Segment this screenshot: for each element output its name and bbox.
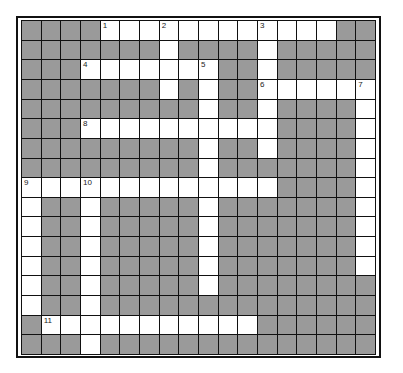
crossword-cell[interactable]: 3	[258, 21, 277, 40]
crossword-cell[interactable]	[22, 198, 41, 217]
crossword-cell[interactable]	[199, 119, 218, 138]
crossword-cell[interactable]	[160, 41, 179, 60]
crossword-cell[interactable]	[199, 21, 218, 40]
blocked-cell	[219, 276, 238, 295]
crossword-cell[interactable]	[81, 198, 100, 217]
blocked-cell	[258, 296, 277, 315]
crossword-cell[interactable]	[22, 237, 41, 256]
crossword-cell[interactable]: 4	[81, 60, 100, 79]
crossword-cell[interactable]	[199, 276, 218, 295]
crossword-cell[interactable]	[179, 21, 198, 40]
crossword-cell[interactable]	[179, 178, 198, 197]
crossword-cell[interactable]: 10	[81, 178, 100, 197]
crossword-cell[interactable]	[160, 316, 179, 335]
crossword-cell[interactable]	[238, 21, 257, 40]
crossword-cell[interactable]	[199, 257, 218, 276]
crossword-cell[interactable]	[219, 21, 238, 40]
crossword-cell[interactable]	[297, 80, 316, 99]
crossword-cell[interactable]	[140, 119, 159, 138]
crossword-cell[interactable]	[42, 178, 61, 197]
blocked-cell	[356, 335, 375, 354]
crossword-cell[interactable]	[120, 119, 139, 138]
crossword-cell[interactable]	[179, 60, 198, 79]
crossword-cell[interactable]	[258, 119, 277, 138]
crossword-cell[interactable]	[356, 237, 375, 256]
crossword-cell[interactable]	[61, 316, 80, 335]
crossword-cell[interactable]	[120, 316, 139, 335]
crossword-cell[interactable]	[199, 198, 218, 217]
crossword-cell[interactable]	[120, 178, 139, 197]
crossword-cell[interactable]	[258, 100, 277, 119]
crossword-cell[interactable]	[81, 276, 100, 295]
crossword-cell[interactable]	[258, 41, 277, 60]
crossword-cell[interactable]	[297, 21, 316, 40]
crossword-cell[interactable]	[356, 100, 375, 119]
crossword-cell[interactable]	[140, 60, 159, 79]
crossword-cell[interactable]	[22, 217, 41, 236]
crossword-cell[interactable]	[140, 21, 159, 40]
crossword-cell[interactable]	[81, 237, 100, 256]
crossword-cell[interactable]	[160, 178, 179, 197]
crossword-cell[interactable]	[199, 237, 218, 256]
crossword-cell[interactable]	[61, 178, 80, 197]
crossword-cell[interactable]: 9	[22, 178, 41, 197]
crossword-cell[interactable]	[179, 119, 198, 138]
crossword-cell[interactable]	[199, 139, 218, 158]
crossword-cell[interactable]	[22, 276, 41, 295]
crossword-cell[interactable]	[199, 316, 218, 335]
crossword-cell[interactable]	[258, 60, 277, 79]
crossword-cell[interactable]	[120, 60, 139, 79]
crossword-cell[interactable]	[278, 80, 297, 99]
crossword-cell[interactable]	[356, 119, 375, 138]
crossword-cell[interactable]	[356, 178, 375, 197]
crossword-cell[interactable]	[199, 100, 218, 119]
crossword-cell[interactable]	[101, 178, 120, 197]
crossword-cell[interactable]	[356, 139, 375, 158]
crossword-cell[interactable]	[219, 316, 238, 335]
crossword-cell[interactable]: 11	[42, 316, 61, 335]
crossword-cell[interactable]	[101, 316, 120, 335]
crossword-cell[interactable]	[199, 178, 218, 197]
crossword-cell[interactable]	[179, 316, 198, 335]
crossword-cell[interactable]	[258, 139, 277, 158]
crossword-cell[interactable]	[101, 119, 120, 138]
crossword-cell[interactable]	[219, 119, 238, 138]
crossword-cell[interactable]	[81, 316, 100, 335]
crossword-cell[interactable]: 1	[101, 21, 120, 40]
crossword-cell[interactable]	[81, 257, 100, 276]
crossword-cell[interactable]: 5	[199, 60, 218, 79]
crossword-cell[interactable]: 7	[356, 80, 375, 99]
crossword-cell[interactable]	[278, 21, 297, 40]
crossword-cell[interactable]	[81, 296, 100, 315]
crossword-cell[interactable]	[199, 159, 218, 178]
blocked-cell	[317, 276, 336, 295]
crossword-cell[interactable]	[199, 217, 218, 236]
crossword-cell[interactable]	[160, 119, 179, 138]
crossword-cell[interactable]	[356, 198, 375, 217]
crossword-cell[interactable]	[81, 335, 100, 354]
crossword-cell[interactable]	[337, 80, 356, 99]
crossword-cell[interactable]: 2	[160, 21, 179, 40]
crossword-cell[interactable]	[238, 119, 257, 138]
crossword-cell[interactable]	[356, 217, 375, 236]
crossword-cell[interactable]	[258, 178, 277, 197]
crossword-cell[interactable]	[219, 178, 238, 197]
crossword-cell[interactable]	[120, 21, 139, 40]
crossword-cell[interactable]	[238, 316, 257, 335]
crossword-cell[interactable]	[356, 159, 375, 178]
crossword-cell[interactable]	[81, 217, 100, 236]
crossword-cell[interactable]: 6	[258, 80, 277, 99]
crossword-cell[interactable]	[199, 80, 218, 99]
crossword-cell[interactable]	[238, 178, 257, 197]
crossword-cell[interactable]	[22, 257, 41, 276]
crossword-cell[interactable]	[356, 257, 375, 276]
crossword-cell[interactable]	[317, 21, 336, 40]
crossword-cell[interactable]	[22, 296, 41, 315]
crossword-cell[interactable]: 8	[81, 119, 100, 138]
crossword-cell[interactable]	[160, 80, 179, 99]
crossword-cell[interactable]	[101, 60, 120, 79]
crossword-cell[interactable]	[140, 316, 159, 335]
crossword-cell[interactable]	[317, 80, 336, 99]
crossword-cell[interactable]	[160, 60, 179, 79]
crossword-cell[interactable]	[140, 178, 159, 197]
